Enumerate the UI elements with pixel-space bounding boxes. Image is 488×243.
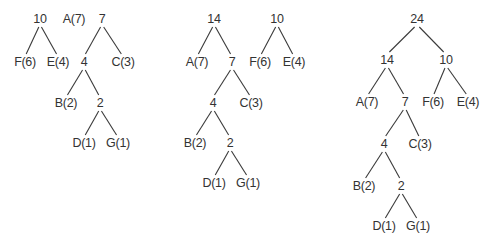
edge-step1-n7-n4 (85, 27, 100, 54)
tree-node-step3-E: E(4) (457, 96, 479, 109)
tree-node-step1-D: D(1) (72, 137, 95, 150)
edge-step1-n2-D (85, 111, 98, 135)
edge-step2-n10-E (278, 27, 292, 54)
tree-node-step3-n4: 4 (381, 138, 388, 151)
tree-node-step3-G: G(1) (406, 220, 430, 233)
edge-step3-n2-D (385, 194, 399, 218)
tree-node-step2-A: A(7) (186, 56, 208, 69)
tree-node-step3-F: F(6) (422, 96, 444, 109)
tree-node-step2-D: D(1) (202, 177, 225, 190)
tree-node-step3-C: C(3) (408, 138, 431, 151)
tree-node-step3-n10: 10 (439, 54, 452, 67)
tree-node-step1-n4: 4 (81, 56, 88, 69)
edge-step1-n10-E (41, 27, 56, 54)
tree-node-step2-E: E(4) (283, 56, 305, 69)
edge-step3-n4-n2 (385, 152, 399, 178)
tree-node-step3-n24: 24 (410, 13, 423, 26)
huffman-diagram: 10F(6)E(4)A(7)74C(3)B(2)2D(1)G(1)14A(7)7… (0, 0, 488, 243)
tree-node-step3-D: D(1) (372, 220, 395, 233)
edge-step1-n10-F (26, 27, 39, 54)
edge-step2-n7-n4 (215, 70, 231, 95)
edge-step2-n2-D (215, 151, 228, 175)
edge-step3-n24-n14 (389, 27, 414, 52)
tree-node-step2-n4: 4 (210, 97, 217, 110)
edge-step1-n4-B (67, 70, 82, 95)
tree-node-step2-G: G(1) (236, 177, 260, 190)
tree-node-step3-B: B(2) (353, 180, 375, 193)
edge-step3-n14-A (369, 68, 386, 94)
edge-step3-n7-C (406, 110, 419, 136)
tree-node-step1-F: F(6) (14, 56, 36, 69)
tree-node-step2-n10: 10 (270, 13, 283, 26)
edge-step3-n24-n10 (419, 27, 443, 52)
tree-node-step2-n7: 7 (229, 56, 236, 69)
edge-step1-n2-G (101, 111, 116, 135)
edge-step2-n4-B (196, 111, 211, 135)
tree-node-step2-C: C(3) (239, 97, 262, 110)
edge-step3-n4-B (366, 152, 383, 178)
tree-node-step1-C: C(3) (111, 56, 134, 69)
edge-step2-n4-n2 (214, 111, 228, 135)
tree-node-step1-G: G(1) (106, 137, 130, 150)
tree-edges (0, 0, 488, 243)
tree-node-step3-A: A(7) (356, 96, 378, 109)
tree-node-step1-n2: 2 (97, 97, 104, 110)
tree-node-step1-n10: 10 (33, 13, 46, 26)
edge-step2-n14-n7 (215, 27, 230, 54)
edge-step2-n2-G (231, 151, 246, 175)
edge-step3-n2-G (402, 194, 416, 218)
tree-node-step1-n7: 7 (99, 13, 106, 26)
edge-step3-n10-E (448, 68, 466, 94)
tree-node-step3-n7: 7 (402, 96, 409, 109)
edge-step3-n7-n4 (386, 110, 404, 136)
edge-step2-n14-A (198, 27, 212, 54)
tree-node-step1-B: B(2) (55, 97, 77, 110)
tree-node-step3-n14: 14 (380, 54, 393, 67)
edge-step3-n10-F (434, 68, 445, 94)
tree-node-step2-F: F(6) (249, 56, 271, 69)
edge-step2-n7-C (234, 70, 250, 95)
tree-node-step1-E: E(4) (47, 56, 69, 69)
edge-step1-n7-C (104, 27, 122, 54)
edge-step3-n14-n7 (388, 68, 403, 94)
tree-node-step2-n2: 2 (227, 137, 234, 150)
tree-node-step1-A: A(7) (63, 13, 85, 26)
tree-node-step2-B: B(2) (184, 137, 206, 150)
edge-step1-n4-n2 (85, 70, 98, 95)
tree-node-step3-n2: 2 (398, 180, 405, 193)
tree-node-step2-n14: 14 (207, 13, 220, 26)
edge-step2-n10-F (261, 27, 275, 54)
